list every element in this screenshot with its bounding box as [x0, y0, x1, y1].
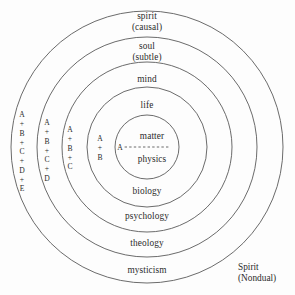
label-physics: physics — [138, 154, 167, 164]
corner-note-spirit-nondual: Spirit (Nondual) — [238, 262, 276, 284]
set-letter: C — [67, 162, 72, 171]
set-letter: + — [19, 120, 24, 129]
set-letter: B — [67, 143, 72, 152]
set-letter: C — [44, 155, 49, 164]
set-letter: + — [19, 138, 24, 147]
label-biology: biology — [132, 186, 161, 196]
label-spirit-sub: (causal) — [132, 22, 162, 33]
set-letter: + — [19, 157, 24, 166]
set-letter: + — [44, 127, 49, 136]
set-label-abcde: A+B+C+D+E — [19, 110, 24, 193]
set-letter: A — [19, 110, 24, 119]
set-letter: B — [97, 153, 102, 162]
set-letter: D — [44, 173, 49, 182]
set-letter: + — [44, 145, 49, 154]
label-theology: theology — [130, 238, 163, 248]
nested-spheres-diagram: spirit (causal) soul (subtle) mind life … — [0, 0, 295, 295]
set-letter: + — [97, 143, 102, 152]
set-letter: + — [19, 175, 24, 184]
label-soul-text: soul — [132, 41, 161, 52]
label-spirit-text: spirit — [132, 11, 162, 22]
corner-note-line2: (Nondual) — [238, 273, 276, 284]
set-label-abcd: A+B+C+D — [44, 118, 49, 183]
set-label-ab: A+B — [97, 134, 102, 162]
set-letter: A — [117, 143, 122, 152]
label-life: life — [141, 100, 154, 110]
label-psychology: psychology — [125, 211, 169, 221]
set-letter: B — [19, 129, 24, 138]
set-letter: + — [67, 153, 72, 162]
label-mysticism: mysticism — [127, 265, 166, 275]
set-letter: C — [19, 147, 24, 156]
set-letter: B — [44, 136, 49, 145]
label-mind: mind — [137, 74, 157, 84]
set-letter: A — [44, 118, 49, 127]
label-matter: matter — [140, 131, 164, 141]
label-soul-sub: (subtle) — [132, 52, 161, 63]
set-letter: D — [19, 166, 24, 175]
set-letter: E — [19, 184, 24, 193]
set-letter: + — [67, 134, 72, 143]
set-letter: + — [44, 164, 49, 173]
set-letter: A — [67, 125, 72, 134]
label-soul-subtle: soul (subtle) — [132, 41, 161, 63]
circle-psychology — [62, 62, 232, 232]
label-spirit-causal: spirit (causal) — [132, 11, 162, 33]
corner-note-line1: Spirit — [238, 262, 276, 273]
set-label-a: A — [117, 143, 122, 152]
set-letter: A — [97, 134, 102, 143]
set-label-abc: A+B+C — [67, 125, 72, 171]
